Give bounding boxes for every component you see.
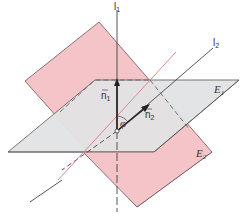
label-l2: l2 — [213, 37, 219, 49]
plane-e2-front — [83, 152, 212, 207]
label-l1: l1 — [114, 1, 120, 13]
line-l2-front — [30, 180, 62, 202]
label-angle-phi: φ — [120, 117, 126, 129]
origin-point — [115, 129, 119, 133]
planes-angle-diagram: l1 l2 n1 n2 φ E1 E2 — [0, 0, 244, 220]
